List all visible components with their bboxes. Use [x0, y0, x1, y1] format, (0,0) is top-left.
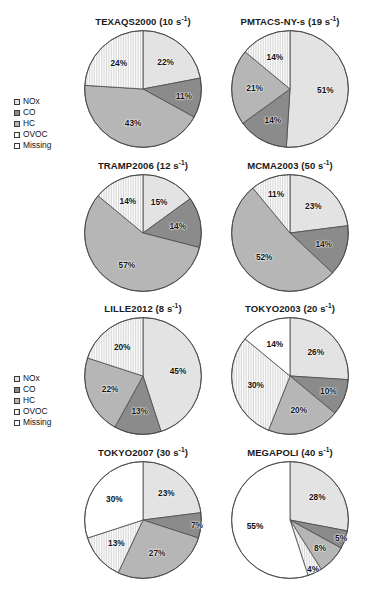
- pie-graphic: 22%11%43%24%: [84, 30, 202, 148]
- pie-slice-nox[interactable]: [290, 175, 348, 233]
- legend-swatch-missing-icon: [14, 420, 20, 426]
- legend-item-label: Missing: [23, 140, 51, 151]
- chart-title: TEXAQS2000 (10 s-1): [58, 16, 228, 28]
- figure-canvas: NOxCOHCOVOCMissing NOxCOHCOVOCMissing TE…: [0, 0, 378, 603]
- legend-item-label: OVOC: [23, 406, 48, 417]
- chart-title: TOKYO2003 (20 s-1): [205, 303, 375, 315]
- pie-chart-megapoli: MEGAPOLI (40 s-1)28%5%8%4%55%: [205, 447, 375, 592]
- legend-item-label: CO: [23, 384, 36, 395]
- chart-title: LILLE2012 (8 s-1): [58, 303, 228, 315]
- pie-chart-tokyo2007: TOKYO2007 (30 s-1)23%7%27%13%30%: [58, 447, 228, 592]
- chart-title-rate: (8 s: [153, 303, 173, 314]
- chart-title-name: TRAMP2006: [98, 160, 154, 171]
- chart-title-name: MCMA2003: [247, 160, 298, 171]
- legend-swatch-ovoc-icon: [14, 409, 20, 415]
- legend-swatch-nox-icon: [14, 99, 20, 105]
- pie-graphic: 28%5%8%4%55%: [231, 461, 349, 579]
- pie-slice-nox[interactable]: [143, 462, 201, 520]
- pie-chart-tramp2006: TRAMP2006 (12 s-1)15%14%57%14%: [58, 160, 228, 305]
- pie-graphic: 51%14%21%14%: [231, 30, 349, 148]
- pie-chart-tokyo2003: TOKYO2003 (20 s-1)26%10%20%30%14%: [205, 303, 375, 448]
- pie-graphic: 45%13%22%20%: [84, 317, 202, 435]
- legend-item-label: NOx: [23, 373, 40, 384]
- legend-item-label: HC: [23, 395, 35, 406]
- chart-title-close: ): [330, 160, 333, 171]
- chart-title-name: PMTACS-NY-s: [240, 16, 305, 27]
- chart-title-close: ): [330, 447, 333, 458]
- chart-title-close: ): [187, 16, 190, 27]
- chart-title: TOKYO2007 (30 s-1): [58, 447, 228, 459]
- chart-title: TRAMP2006 (12 s-1): [58, 160, 228, 172]
- pie-graphic: 15%14%57%14%: [84, 174, 202, 292]
- chart-title-rate: (40 s: [299, 447, 324, 458]
- pie-graphic: 23%7%27%13%30%: [84, 461, 202, 579]
- chart-title-rate: (30 s: [154, 447, 179, 458]
- pie-slice-ovoc[interactable]: [85, 31, 143, 89]
- legend-swatch-co-icon: [14, 387, 20, 393]
- legend-item-label: CO: [23, 107, 36, 118]
- pie-slice-nox[interactable]: [286, 31, 348, 148]
- caption-strip: [0, 594, 378, 603]
- chart-title-close: ): [185, 447, 188, 458]
- chart-title-rate: (10 s: [156, 16, 181, 27]
- pie-graphic: 23%14%52%11%: [231, 174, 349, 292]
- legend-swatch-nox-icon: [14, 376, 20, 382]
- legend-swatch-ovoc-icon: [14, 132, 20, 138]
- chart-title-close: ): [178, 303, 181, 314]
- pie-slice-nox[interactable]: [290, 462, 348, 531]
- chart-title: MEGAPOLI (40 s-1): [205, 447, 375, 459]
- pie-chart-mcma2003: MCMA2003 (50 s-1)23%14%52%11%: [205, 160, 375, 305]
- pie-slice-nox[interactable]: [290, 318, 348, 380]
- chart-title-name: TOKYO2003: [245, 303, 301, 314]
- chart-title-close: ): [332, 303, 335, 314]
- pie-chart-lille2012: LILLE2012 (8 s-1)45%13%22%20%: [58, 303, 228, 448]
- pie-chart-pmtacs-ny-s: PMTACS-NY-s (19 s-1)51%14%21%14%: [205, 16, 375, 161]
- pie-graphic: 26%10%20%30%14%: [231, 317, 349, 435]
- legend-swatch-missing-icon: [14, 143, 20, 149]
- legend-swatch-co-icon: [14, 110, 20, 116]
- chart-title-rate: (20 s: [301, 303, 326, 314]
- legend-item-label: NOx: [23, 96, 40, 107]
- chart-title-close: ): [336, 16, 339, 27]
- chart-title-name: MEGAPOLI: [247, 447, 298, 458]
- pie-chart-texaqs2000: TEXAQS2000 (10 s-1)22%11%43%24%: [58, 16, 228, 161]
- legend-item-label: OVOC: [23, 129, 48, 140]
- chart-title-name: TOKYO2007: [98, 447, 154, 458]
- legend-item-label: HC: [23, 118, 35, 129]
- chart-title-rate: (50 s: [299, 160, 324, 171]
- chart-title-close: ): [185, 160, 188, 171]
- chart-title: MCMA2003 (50 s-1): [205, 160, 375, 172]
- legend-swatch-hc-icon: [14, 398, 20, 404]
- chart-title-rate: (12 s: [154, 160, 179, 171]
- legend-item-label: Missing: [23, 417, 51, 428]
- legend-swatch-hc-icon: [14, 121, 20, 127]
- chart-title-name: TEXAQS2000: [95, 16, 156, 27]
- chart-title-name: LILLE2012: [104, 303, 152, 314]
- chart-title: PMTACS-NY-s (19 s-1): [205, 16, 375, 28]
- chart-title-rate: (19 s: [305, 16, 330, 27]
